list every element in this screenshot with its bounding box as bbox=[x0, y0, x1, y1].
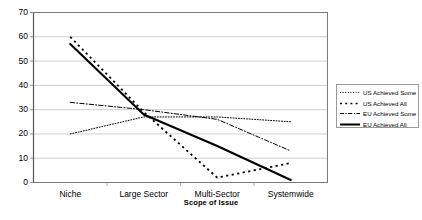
y-axis-tick-label: 50 bbox=[4, 57, 28, 66]
y-axis-tick-label: 0 bbox=[4, 178, 28, 187]
legend-swatch-eu-achieved-some bbox=[339, 109, 361, 118]
x-axis-category-label: Multi-Sector bbox=[181, 190, 255, 199]
legend-label: EU Achieved All bbox=[363, 120, 407, 129]
x-axis-category-label: Systemwide bbox=[254, 190, 328, 199]
y-axis-tick-label: 20 bbox=[4, 129, 28, 138]
x-axis-category-label: Niche bbox=[34, 190, 108, 199]
legend-item[interactable]: EU Achieved All bbox=[339, 120, 416, 130]
series-lines bbox=[70, 37, 291, 180]
tick-marks bbox=[30, 13, 254, 187]
gridlines bbox=[34, 13, 328, 183]
y-axis-tick-label: 60 bbox=[4, 32, 28, 41]
legend-label: US Achieved All bbox=[363, 99, 407, 108]
plot-frame bbox=[34, 13, 328, 183]
line-chart: 010203040506070 NicheLarge SectorMulti-S… bbox=[0, 0, 422, 220]
y-axis-tick-label: 10 bbox=[4, 154, 28, 163]
legend-label: EU Achieved Some bbox=[363, 109, 416, 118]
y-axis-tick-label: 30 bbox=[4, 105, 28, 114]
legend-swatch-eu-achieved-all bbox=[339, 120, 361, 129]
x-axis-title: Scope of Issue bbox=[0, 198, 422, 207]
legend-item[interactable]: EU Achieved Some bbox=[339, 109, 416, 119]
legend-label: US Achieved Some bbox=[363, 88, 416, 97]
y-axis-tick-label: 40 bbox=[4, 81, 28, 90]
legend: US Achieved Some US Achieved All EU Achi… bbox=[336, 84, 419, 128]
legend-item[interactable]: US Achieved Some bbox=[339, 88, 416, 98]
x-axis-category-label: Large Sector bbox=[107, 190, 181, 199]
legend-swatch-us-achieved-all bbox=[339, 99, 361, 108]
y-axis-tick-label: 70 bbox=[4, 8, 28, 17]
legend-swatch-us-achieved-some bbox=[339, 88, 361, 97]
legend-item[interactable]: US Achieved All bbox=[339, 99, 416, 109]
